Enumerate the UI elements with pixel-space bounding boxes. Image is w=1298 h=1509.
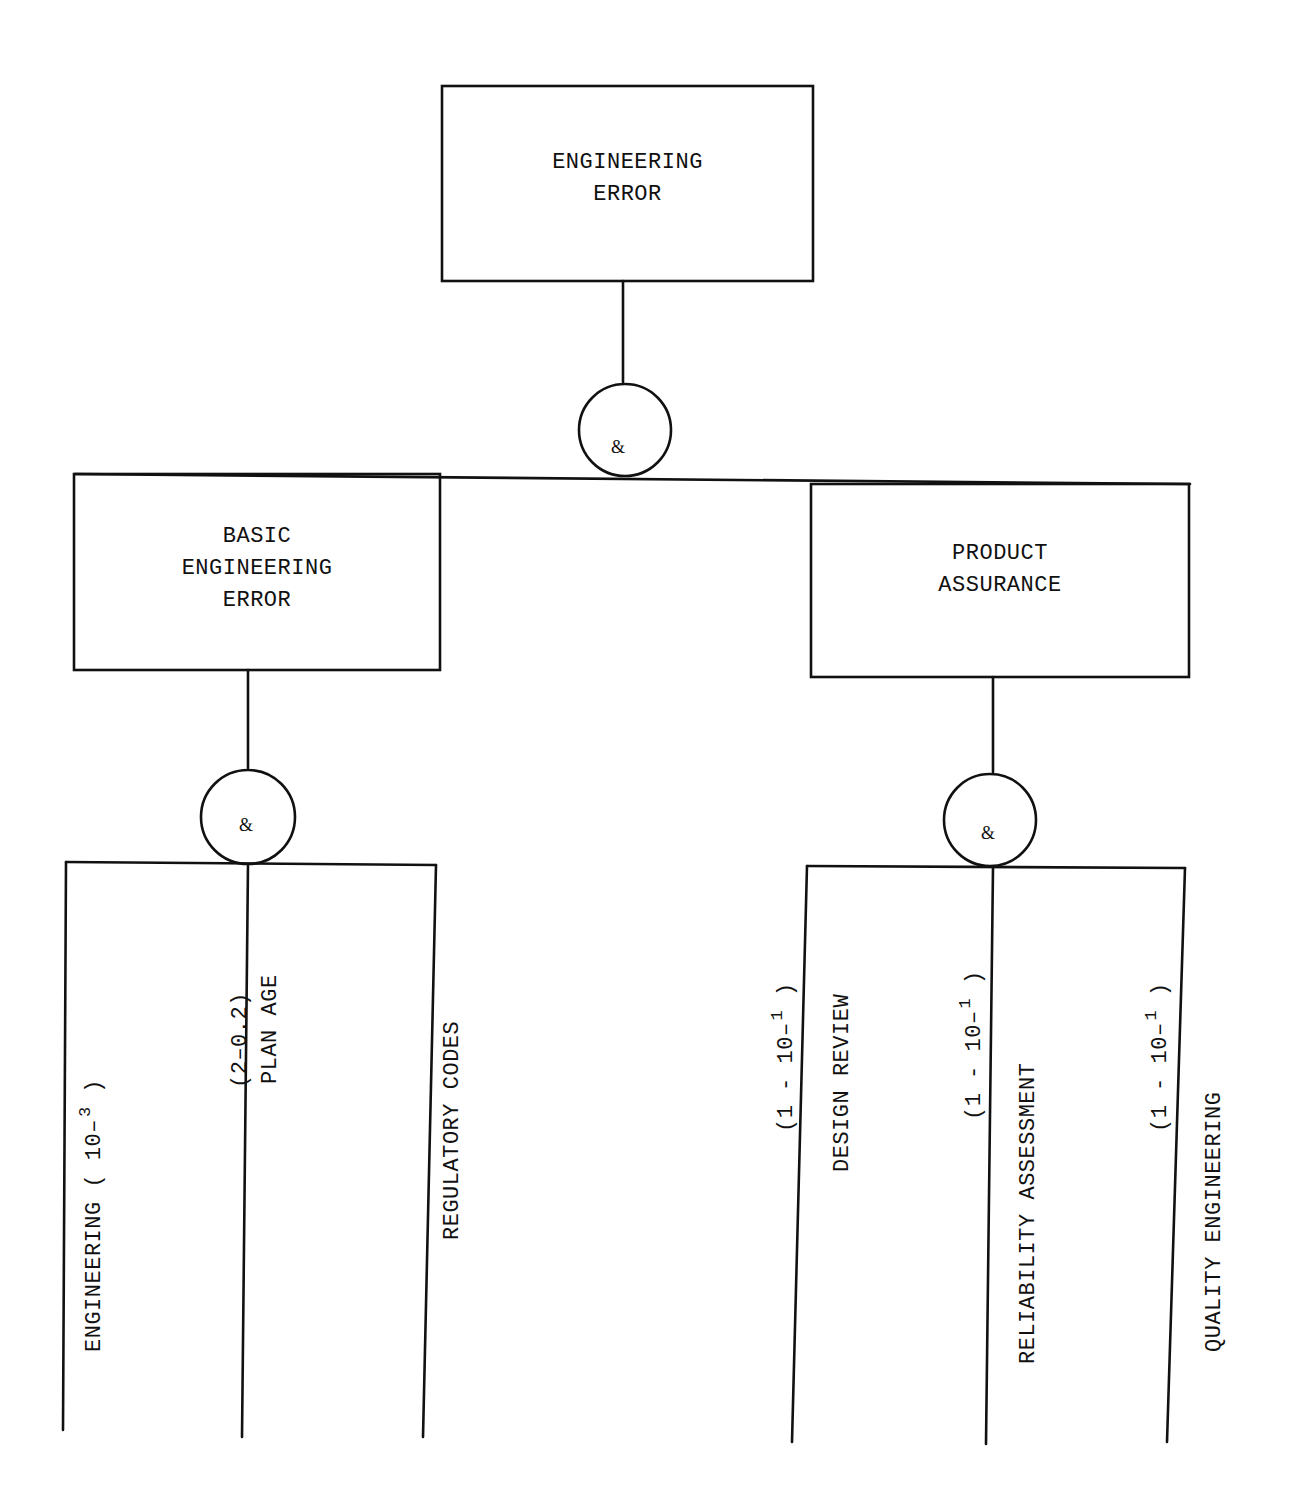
engineering-label: ENGINEERING <box>82 1201 107 1352</box>
quality-engineering-label: QUALITY ENGINEERING <box>1202 1092 1227 1352</box>
basic-engineering-error-line2: ENGINEERING <box>182 553 333 585</box>
plan-age-probability: (2–0.2) <box>228 992 253 1088</box>
regulatory-codes-label: REGULATORY CODES <box>440 1021 465 1240</box>
design-review-label: DESIGN REVIEW <box>830 994 855 1172</box>
top-gate-symbol: & <box>598 432 638 462</box>
reliability-assessment-label: RELIABILITY ASSESSMENT <box>1016 1063 1041 1364</box>
basic-engineering-error-line3: ERROR <box>223 585 292 617</box>
plan-age-label: PLAN AGE <box>258 974 283 1084</box>
top-and-gate-icon <box>579 384 671 476</box>
quality-engineering-probability: (1 - 10–1 ) <box>1142 982 1173 1132</box>
reliability-assessment-probability: (1 - 10–1 ) <box>956 970 987 1120</box>
product-assurance-event: PRODUCT ASSURANCE <box>811 484 1189 677</box>
basic-engineering-error-line1: BASIC <box>223 521 292 553</box>
top-event-label-line2: ERROR <box>593 179 662 211</box>
design-review-probability: (1 - 10–1 ) <box>768 982 799 1132</box>
left-gate-symbol: & <box>226 810 266 840</box>
product-assurance-line2: ASSURANCE <box>938 570 1061 602</box>
top-event: ENGINEERING ERROR <box>442 86 813 281</box>
basic-event-engineering: ENGINEERING ( 10–3 ) <box>76 1079 107 1352</box>
right-gate-symbol: & <box>968 818 1008 848</box>
top-event-label-line1: ENGINEERING <box>552 147 703 179</box>
engineering-probability: ( 10–3 ) <box>82 1079 107 1188</box>
product-assurance-line1: PRODUCT <box>952 538 1048 570</box>
basic-engineering-error-event: BASIC ENGINEERING ERROR <box>74 474 440 670</box>
